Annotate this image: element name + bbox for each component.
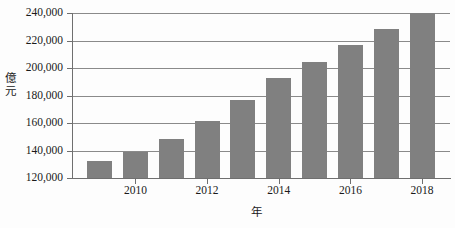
bar [266, 78, 291, 178]
x-axis-title: 年 [236, 203, 276, 219]
x-axis-tick-label: 2016 [328, 184, 372, 196]
y-axis-tick-label: 220,000 [3, 35, 63, 46]
bar [159, 139, 184, 178]
y-axis-tick-label: 120,000 [3, 172, 63, 183]
y-axis-tick-label: 140,000 [3, 145, 63, 156]
x-axis-tick-label: 2010 [113, 184, 157, 196]
x-axis-tick-label: 2018 [400, 184, 444, 196]
y-axis-tick-label: 240,000 [3, 7, 63, 18]
bar [302, 62, 327, 178]
bar [123, 152, 148, 178]
y-axis-tick-label: 200,000 [3, 62, 63, 73]
x-axis-tick-label: 2014 [257, 184, 301, 196]
x-axis-tick-label: 2012 [185, 184, 229, 196]
x-axis-line [72, 178, 451, 179]
bar [410, 13, 435, 178]
bars-layer [72, 13, 450, 178]
y-axis-tick-label: 180,000 [3, 90, 63, 101]
y-axis-tick-label: 160,000 [3, 117, 63, 128]
bar [87, 161, 112, 178]
bar [338, 45, 363, 178]
bar-chart: 億元 120,000140,000160,000180,000200,00022… [0, 0, 455, 228]
bar [230, 100, 255, 178]
bar [374, 29, 399, 178]
bar [195, 121, 220, 178]
